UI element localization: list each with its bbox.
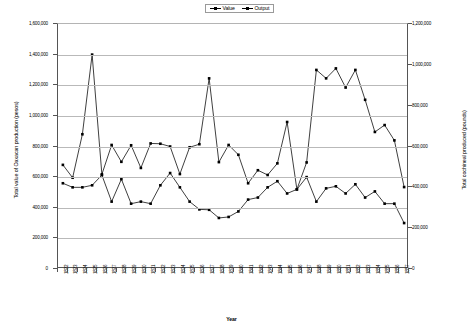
y-axis-left-tick-mark: [53, 237, 57, 238]
x-axis-tick-mark: [174, 268, 175, 272]
x-axis-tick-mark: [233, 268, 234, 272]
x-axis-tick-mark: [291, 268, 292, 272]
y-axis-right-tick-mark: [408, 227, 412, 228]
x-axis-tick-mark: [252, 268, 253, 272]
x-axis-tick-mark: [398, 268, 399, 272]
x-axis-tick-mark: [262, 268, 263, 272]
y-axis-left-tick-label: 1,400,000: [0, 51, 48, 56]
y-axis-left-tick-label: 400,000: [0, 204, 48, 209]
y-axis-left-tick-mark: [53, 54, 57, 55]
x-axis-tick-mark: [301, 268, 302, 272]
x-axis-tick-mark: [320, 268, 321, 272]
y-axis-right-tick-label: 600,000: [412, 143, 460, 148]
x-axis-tick-mark: [116, 268, 117, 272]
y-axis-right-tick-mark: [408, 146, 412, 147]
x-axis-tick-mark: [389, 268, 390, 272]
x-axis-tick-mark: [164, 268, 165, 272]
x-axis-tick-mark: [408, 268, 409, 272]
y-axis-left-title: Total value of Oaxacan production (pesos…: [13, 85, 21, 215]
y-axis-right-tick-mark: [408, 105, 412, 106]
y-axis-left-tick-label: 0: [0, 266, 48, 271]
x-axis-tick-mark: [57, 268, 58, 272]
x-axis-tick-mark: [194, 268, 195, 272]
y-axis-left-tick-mark: [53, 115, 57, 116]
y-axis-right-tick-label: 200,000: [412, 225, 460, 230]
y-axis-right-tick-label: 1,200,000: [412, 21, 460, 26]
y-axis-right-tick-label: 0: [412, 266, 460, 271]
x-axis-tick-mark: [125, 268, 126, 272]
y-axis-right-tick-mark: [408, 64, 412, 65]
x-axis-tick-mark: [330, 268, 331, 272]
y-axis-left-tick-label: 200,000: [0, 235, 48, 240]
y-axis-left-tick-label: 1,200,000: [0, 82, 48, 87]
x-axis-tick-mark: [106, 268, 107, 272]
y-axis-left-tick-label: 800,000: [0, 143, 48, 148]
x-axis-tick-mark: [96, 268, 97, 272]
x-axis-tick-mark: [379, 268, 380, 272]
y-axis-right-tick-mark: [408, 186, 412, 187]
x-axis-tick-mark: [350, 268, 351, 272]
x-axis-tick-mark: [242, 268, 243, 272]
x-axis-tick-mark: [67, 268, 68, 272]
y-axis-left-tick-mark: [53, 23, 57, 24]
x-axis-tick-mark: [86, 268, 87, 272]
x-axis-tick-mark: [77, 268, 78, 272]
y-axis-right-title: Total cochineal produced (pounds): [461, 85, 469, 215]
y-axis-left-tick-mark: [53, 176, 57, 177]
x-axis-tick-mark: [359, 268, 360, 272]
y-axis-left-tick-label: 1,600,000: [0, 21, 48, 26]
y-axis-right-tick-mark: [408, 23, 412, 24]
x-axis-tick-mark: [135, 268, 136, 272]
x-axis-tick-mark: [311, 268, 312, 272]
y-axis-left-tick-mark: [53, 146, 57, 147]
x-axis-tick-mark: [155, 268, 156, 272]
y-axis-right-tick-label: 400,000: [412, 184, 460, 189]
x-axis-tick-mark: [272, 268, 273, 272]
x-axis-tick-mark: [223, 268, 224, 272]
x-axis-tick-mark: [281, 268, 282, 272]
y-axis-left-tick-label: 600,000: [0, 174, 48, 179]
x-axis-tick-mark: [340, 268, 341, 272]
x-axis-tick-mark: [369, 268, 370, 272]
x-axis-tick-mark: [203, 268, 204, 272]
y-axis-right-tick-label: 1,000,000: [412, 61, 460, 66]
y-axis-left-tick-label: 1,000,000: [0, 112, 48, 117]
y-axis-left-tick-mark: [53, 207, 57, 208]
y-axis-right-tick-label: 800,000: [412, 102, 460, 107]
y-axis-left-tick-mark: [53, 84, 57, 85]
x-axis-tick-mark: [145, 268, 146, 272]
x-axis-tick-mark: [213, 268, 214, 272]
x-axis-title: Year: [0, 316, 463, 322]
x-axis-tick-mark: [184, 268, 185, 272]
